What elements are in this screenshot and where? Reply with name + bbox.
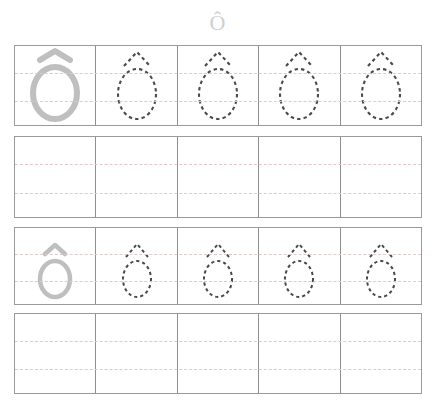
row-4-cell-4-blank[interactable] (259, 314, 340, 393)
row-2-cell-5-blank[interactable] (341, 137, 421, 217)
row-4-cell-1-blank[interactable] (15, 314, 96, 393)
trace-letter-o-circumflex-icon (195, 240, 241, 300)
worksheet-row-3 (14, 227, 422, 305)
trace-letter-o-circumflex-icon (269, 50, 329, 122)
row-3-cell-1-model[interactable] (15, 228, 96, 304)
trace-letter-o-circumflex-icon (188, 50, 248, 122)
trace-letter-o-circumflex-icon (114, 240, 160, 300)
row-1-cell-4-trace[interactable] (259, 46, 340, 125)
row-1-cell-2-trace[interactable] (96, 46, 177, 125)
worksheet-header: Ô (0, 8, 435, 38)
row-3-cell-5-trace[interactable] (341, 228, 421, 304)
row-3-cells (15, 228, 421, 304)
trace-letter-o-circumflex-icon (107, 50, 167, 122)
row-1-cell-5-trace[interactable] (341, 46, 421, 125)
worksheet-page: Ô (0, 0, 435, 405)
row-1-cells (15, 46, 421, 125)
row-2-cell-1-blank[interactable] (15, 137, 96, 217)
trace-letter-o-circumflex-icon (276, 240, 322, 300)
row-2-cell-3-blank[interactable] (178, 137, 259, 217)
model-letter-o-circumflex-icon (32, 242, 78, 300)
row-4-cell-3-blank[interactable] (178, 314, 259, 393)
row-2-cell-2-blank[interactable] (96, 137, 177, 217)
row-4-cell-2-blank[interactable] (96, 314, 177, 393)
trace-letter-o-circumflex-icon (358, 240, 404, 300)
row-3-cell-2-trace[interactable] (96, 228, 177, 304)
row-3-cell-3-trace[interactable] (178, 228, 259, 304)
worksheet-row-4 (14, 313, 422, 394)
row-4-cells (15, 314, 421, 393)
trace-letter-o-circumflex-icon (351, 50, 411, 122)
row-2-cell-4-blank[interactable] (259, 137, 340, 217)
worksheet-row-2 (14, 136, 422, 218)
header-title-letter: Ô (210, 8, 226, 38)
model-letter-o-circumflex-icon (24, 50, 86, 122)
row-4-cell-5-blank[interactable] (341, 314, 421, 393)
row-1-cell-3-trace[interactable] (178, 46, 259, 125)
worksheet-row-1 (14, 45, 422, 126)
row-3-cell-4-trace[interactable] (259, 228, 340, 304)
row-2-cells (15, 137, 421, 217)
row-1-cell-1-model[interactable] (15, 46, 96, 125)
